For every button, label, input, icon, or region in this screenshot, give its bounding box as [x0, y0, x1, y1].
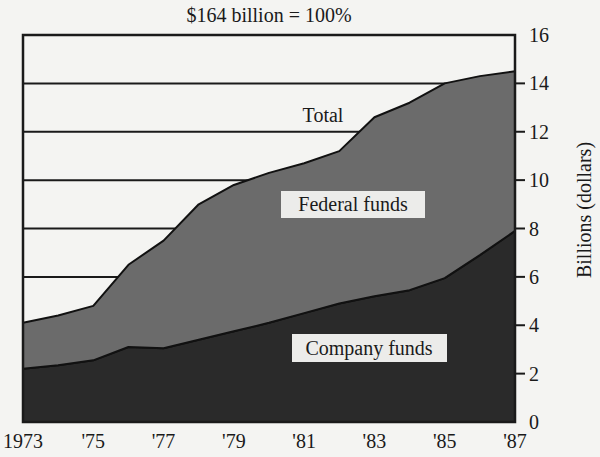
x-tick-label: '77: [152, 430, 176, 452]
x-tick-label: '87: [503, 430, 527, 452]
total-label: Total: [303, 104, 344, 126]
y-tick-label: 14: [529, 72, 549, 94]
y-tick-label: 4: [529, 314, 539, 336]
company-funds-label: Company funds: [305, 337, 432, 360]
y-axis: 0246810121416: [515, 24, 549, 433]
stacked-area-chart: 0246810121416 1973'75'77'79'81'83'85'87 …: [0, 0, 600, 457]
x-tick-label: 1973: [3, 430, 43, 452]
y-tick-label: 6: [529, 266, 539, 288]
x-tick-label: '79: [222, 430, 246, 452]
y-tick-label: 2: [529, 363, 539, 385]
y-tick-label: 12: [529, 121, 549, 143]
federal-funds-label: Federal funds: [298, 193, 408, 215]
y-tick-label: 8: [529, 218, 539, 240]
y-tick-label: 16: [529, 24, 549, 46]
area-series: [23, 71, 515, 422]
x-tick-label: '75: [81, 430, 105, 452]
y-axis-label: Billions (dollars): [573, 142, 596, 278]
y-tick-label: 10: [529, 169, 549, 191]
x-tick-label: '85: [433, 430, 457, 452]
y-tick-label: 0: [529, 411, 539, 433]
x-tick-label: '81: [292, 430, 316, 452]
x-tick-label: '83: [363, 430, 387, 452]
x-axis: 1973'75'77'79'81'83'85'87: [3, 430, 527, 452]
